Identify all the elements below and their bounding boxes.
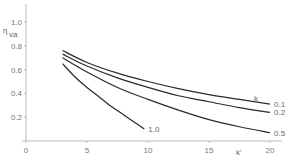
y-tick-label: 1.0	[11, 18, 23, 27]
x-tick-label: 5	[85, 146, 90, 155]
x-tick-label: 20	[266, 146, 275, 155]
curve-k-0.1	[63, 51, 270, 105]
curve-label: 0.5	[274, 129, 286, 138]
curve-k-0.2	[63, 54, 270, 112]
x-tick-label: 0	[24, 146, 29, 155]
x-tick-label: 15	[205, 146, 214, 155]
curve-k-1.0	[63, 64, 145, 129]
y-tick-label: 0.8	[11, 42, 23, 51]
x-tick-label: 10	[144, 146, 153, 155]
chart: 0.20.40.60.81.0 05101520 η va k' k 0.10.…	[0, 0, 288, 160]
y-axis-label: η va	[3, 26, 18, 39]
y-label-main: η	[3, 26, 7, 35]
y-tick-label: 0.4	[11, 89, 23, 98]
x-axis-label: k'	[236, 148, 242, 157]
curves	[63, 51, 270, 133]
curve-label: 1.0	[148, 125, 160, 134]
y-tick-label: 0.6	[11, 66, 23, 75]
curve-label: 0.2	[274, 108, 286, 117]
y-label-sub: va	[9, 30, 18, 39]
y-tick-label: 0.2	[11, 113, 23, 122]
